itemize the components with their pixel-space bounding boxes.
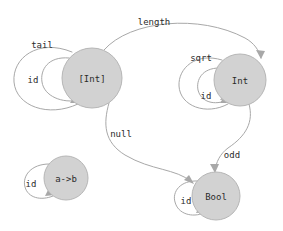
node-bool[interactable]: Bool (192, 172, 240, 220)
self-loop-id-int-label: id (201, 91, 212, 101)
node-int-label: Int (232, 76, 248, 86)
edge-length-arrowhead (256, 50, 265, 59)
self-loop-id-a-to-b-label: id (26, 179, 37, 189)
edge-odd[interactable]: odd (210, 104, 250, 173)
edge-null-path (106, 103, 192, 182)
edge-length-label: length (138, 17, 171, 27)
node-list-int[interactable]: [Int] (62, 48, 122, 108)
edge-length-path (104, 23, 261, 58)
self-loop-id-bool-label: id (181, 196, 192, 206)
edge-odd-label: odd (224, 150, 240, 160)
self-loop-id-list-int-label: id (28, 75, 39, 85)
node-bool-label: Bool (205, 192, 227, 202)
graph-svg: length null odd tail id (0, 0, 283, 231)
node-list-int-label: [Int] (78, 74, 105, 84)
self-loop-tail-label: tail (31, 40, 53, 50)
node-a-to-b[interactable]: a->b (44, 156, 88, 200)
edge-null[interactable]: null (106, 103, 194, 184)
node-int[interactable]: Int (214, 54, 266, 106)
edge-length[interactable]: length (104, 17, 265, 60)
self-loop-sqrt-label: sqrt (190, 53, 212, 63)
edge-odd-path (215, 104, 250, 171)
edge-null-label: null (110, 129, 132, 139)
node-a-to-b-label: a->b (55, 174, 77, 184)
diagram-canvas: length null odd tail id (0, 0, 283, 231)
